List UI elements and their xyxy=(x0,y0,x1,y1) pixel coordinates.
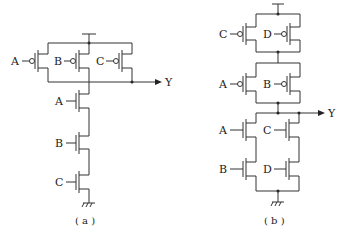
output-label-b: Y xyxy=(327,107,336,120)
input-label: C xyxy=(55,176,63,189)
input-label: B xyxy=(263,78,271,91)
input-label: A xyxy=(218,78,228,91)
caption-b: ( b ) xyxy=(264,215,285,226)
input-label: C xyxy=(219,28,227,41)
output-label-a: Y xyxy=(164,76,173,89)
input-label: A xyxy=(54,95,64,108)
arrow-icon xyxy=(155,79,162,85)
input-label: C xyxy=(263,124,271,137)
input-label: C xyxy=(96,55,104,68)
input-label: A xyxy=(10,55,20,68)
input-label: B xyxy=(55,137,63,150)
input-label: B xyxy=(219,163,227,176)
caption-a: ( a ) xyxy=(75,215,95,226)
cmos-circuits: Y A B C xyxy=(0,0,346,239)
circuit-a: Y A B C xyxy=(10,34,173,226)
ground-icon xyxy=(271,202,284,206)
input-label: D xyxy=(263,163,272,176)
input-label: D xyxy=(263,28,272,41)
arrow-icon xyxy=(318,110,325,116)
input-label: B xyxy=(54,55,62,68)
input-label: A xyxy=(218,124,228,137)
circuit-b: C D A B xyxy=(218,4,336,226)
ground-icon xyxy=(82,203,95,207)
